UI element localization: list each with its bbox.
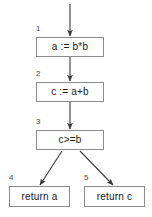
- node-5[interactable]: return c: [84, 186, 145, 207]
- node-2[interactable]: c := a+b: [36, 82, 104, 102]
- edge-3-to-4: [40, 151, 62, 185]
- node-5-text: return c: [97, 192, 133, 202]
- node-1-text: a := b*b: [52, 42, 88, 52]
- node-label-2: 2: [36, 70, 40, 78]
- node-1[interactable]: a := b*b: [36, 37, 104, 57]
- control-flow-graph: 1 a := b*b 2 c := a+b 3 c>=b 4 return a …: [0, 0, 152, 217]
- node-2-text: c := a+b: [51, 87, 89, 97]
- node-3[interactable]: c>=b: [36, 130, 104, 150]
- node-label-3: 3: [36, 118, 40, 126]
- graph-edges-layer: [0, 0, 152, 217]
- node-4-text: return a: [21, 192, 57, 202]
- node-label-4: 4: [9, 174, 13, 182]
- node-4[interactable]: return a: [9, 186, 70, 207]
- node-3-text: c>=b: [58, 135, 81, 145]
- node-label-1: 1: [36, 25, 40, 33]
- node-label-5: 5: [84, 174, 88, 182]
